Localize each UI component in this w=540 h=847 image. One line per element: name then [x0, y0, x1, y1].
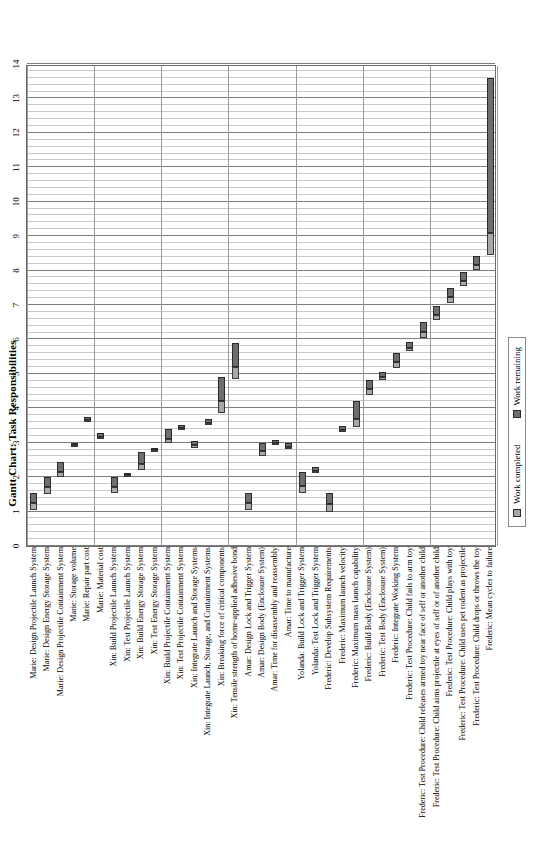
- gridline-major: [27, 166, 495, 167]
- gantt-bar[interactable]: [30, 493, 37, 510]
- work-completed-swatch-icon: [513, 509, 521, 517]
- gridline-minor: [27, 153, 495, 154]
- gantt-bar[interactable]: [178, 425, 185, 429]
- gantt-bar-work-remaining: [138, 452, 145, 464]
- gridline-minor: [27, 290, 495, 291]
- category-label: Marie: Design Projectile Containment Sys…: [55, 543, 64, 847]
- gantt-bar-work-completed: [138, 464, 145, 470]
- row-separator: [430, 66, 431, 546]
- gridline-minor: [27, 538, 495, 539]
- gantt-bar-work-completed: [97, 437, 104, 439]
- gantt-bar[interactable]: [138, 452, 145, 470]
- category-label: Xin: Tensile strength of home-applied ad…: [230, 543, 239, 847]
- gantt-bar[interactable]: [339, 426, 346, 433]
- gantt-bar-work-completed: [111, 487, 118, 493]
- row-separator: [94, 66, 95, 546]
- gantt-bar[interactable]: [353, 401, 360, 427]
- x-axis-tick-label: 13: [11, 94, 21, 103]
- category-label: Frederic: Test Body (Enclosure System): [377, 543, 386, 847]
- category-label: Xin: Integrate Launch, Storage, and Cont…: [203, 543, 212, 847]
- gantt-bar[interactable]: [111, 477, 118, 492]
- gridline-minor: [27, 345, 495, 346]
- gridline-minor: [27, 242, 495, 243]
- gridline-minor: [27, 490, 495, 491]
- gantt-bar[interactable]: [151, 448, 158, 452]
- gantt-bar[interactable]: [379, 372, 386, 380]
- gridline-minor: [27, 366, 495, 367]
- gantt-bar[interactable]: [473, 256, 480, 270]
- gridline-major: [27, 407, 495, 408]
- gantt-bar[interactable]: [406, 342, 413, 351]
- gantt-bar-work-completed: [487, 233, 494, 255]
- gantt-bar-work-remaining: [353, 401, 360, 418]
- category-label: Frederic: Build Body (Enclosure System): [364, 543, 373, 847]
- category-label: Frederic: Test Procedure: Child aims pro…: [431, 543, 440, 847]
- gantt-bar[interactable]: [433, 306, 440, 321]
- category-label: Marie: Material cost: [95, 543, 104, 847]
- gantt-bar[interactable]: [71, 443, 78, 447]
- gridline-minor: [27, 194, 495, 195]
- gantt-bar-work-remaining: [366, 380, 373, 389]
- gantt-bar[interactable]: [420, 322, 427, 337]
- gridline-minor: [27, 497, 495, 498]
- gantt-bar[interactable]: [326, 493, 333, 512]
- gantt-bar-work-completed: [326, 504, 333, 512]
- gridline-minor: [27, 380, 495, 381]
- category-label: Amar: Design Body (Enclosure System): [257, 543, 266, 847]
- category-label: Frederic: Integrate Working System: [391, 543, 400, 847]
- gantt-bar-work-remaining: [420, 322, 427, 332]
- gantt-bar[interactable]: [272, 440, 279, 446]
- gantt-bar-work-completed: [178, 428, 185, 430]
- gantt-bar[interactable]: [393, 353, 400, 368]
- gantt-bar[interactable]: [97, 433, 104, 439]
- gantt-bar-work-completed: [165, 439, 172, 443]
- gridline-minor: [27, 91, 495, 92]
- gridline-major: [27, 132, 495, 133]
- gantt-bar[interactable]: [366, 380, 373, 395]
- gantt-bar-work-completed: [124, 475, 131, 477]
- gantt-bar[interactable]: [299, 472, 306, 493]
- chart-title: Gantt Chart: Task Responsibilities: [6, 0, 18, 847]
- row-separator: [27, 66, 28, 546]
- gantt-bar[interactable]: [84, 417, 91, 422]
- row-separator: [497, 66, 498, 546]
- gantt-bar[interactable]: [259, 443, 266, 457]
- gantt-bar[interactable]: [205, 419, 212, 425]
- x-axis-tick-label: 12: [11, 128, 21, 137]
- gantt-bar[interactable]: [312, 467, 319, 473]
- gantt-bar[interactable]: [447, 288, 454, 303]
- gantt-bar[interactable]: [165, 429, 172, 443]
- gridline-minor: [27, 469, 495, 470]
- gantt-bar[interactable]: [191, 441, 198, 448]
- gridline-major: [27, 338, 495, 339]
- category-label: Frederic: Develop Subsystem Requirements: [324, 543, 333, 847]
- gantt-bar[interactable]: [487, 78, 494, 255]
- gantt-bar-work-remaining: [406, 342, 413, 348]
- gantt-bar[interactable]: [460, 272, 467, 286]
- gridline-minor: [27, 297, 495, 298]
- gantt-bar-work-completed: [245, 503, 252, 510]
- chart-figure: Gantt Chart: Task Responsibilities 01234…: [0, 0, 540, 847]
- gridline-major: [27, 270, 495, 271]
- gridline-minor: [27, 249, 495, 250]
- gantt-bar[interactable]: [44, 477, 51, 494]
- x-axis-tick-label: 14: [11, 60, 21, 69]
- gantt-bar-work-remaining: [339, 426, 346, 430]
- gantt-bar-work-remaining: [259, 443, 266, 452]
- gridline-minor: [27, 352, 495, 353]
- legend-item-work-remaining: Work remaining: [512, 347, 522, 419]
- gantt-bar[interactable]: [57, 462, 64, 477]
- gantt-bar[interactable]: [218, 377, 225, 413]
- gantt-bar[interactable]: [285, 443, 292, 449]
- gantt-bar-work-remaining: [487, 78, 494, 233]
- gantt-bar[interactable]: [232, 343, 239, 379]
- gantt-bar-work-completed: [366, 389, 373, 395]
- chart-canvas: Gantt Chart: Task Responsibilities 01234…: [0, 0, 540, 847]
- gridline-minor: [27, 180, 495, 181]
- plot-area: 01234567891011121314: [26, 65, 496, 547]
- gridline-minor: [27, 311, 495, 312]
- gridline-major: [27, 304, 495, 305]
- gantt-bar[interactable]: [245, 493, 252, 510]
- gantt-bar[interactable]: [124, 473, 131, 477]
- category-label: Xin: Test Projectile Containment System: [176, 543, 185, 847]
